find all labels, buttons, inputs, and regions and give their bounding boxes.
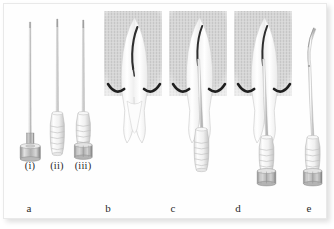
hub-plastic-iii xyxy=(76,112,90,146)
panel-label-b: b xyxy=(88,202,128,214)
hub-metal-collar-e xyxy=(303,169,322,186)
hub-plastic-ii xyxy=(50,112,64,156)
panel-a xyxy=(8,14,100,159)
hub-metal-collar-d xyxy=(257,169,276,186)
hub-plastic-c xyxy=(194,127,209,171)
panel-a-graphic xyxy=(8,14,100,159)
panel-e xyxy=(291,22,334,200)
panel-label-e: e xyxy=(289,202,329,214)
panel-label-a: a xyxy=(9,202,49,214)
hub-metal-collar-iii xyxy=(74,143,92,160)
needle-iii xyxy=(74,20,92,159)
needle-ii xyxy=(50,19,64,156)
sublabel-iii: (iii) xyxy=(65,160,101,171)
panel-e-graphic xyxy=(291,22,334,200)
figure-container: (i) (ii) (iii) xyxy=(0,0,334,229)
hub-plastic-d xyxy=(259,135,274,171)
hub-plastic-e xyxy=(305,135,320,171)
needle-e xyxy=(303,28,322,186)
panel-label-c: c xyxy=(153,202,193,214)
panel-label-d: d xyxy=(218,202,258,214)
needle-i xyxy=(20,22,40,161)
